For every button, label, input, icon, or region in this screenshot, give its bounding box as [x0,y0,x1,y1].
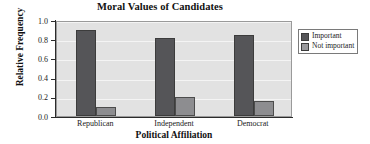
bar [254,101,274,116]
y-axis-tick [51,21,56,22]
legend-swatch-icon [301,43,309,51]
y-axis-tick-label: 0.8 [22,36,48,45]
chart-title: Moral Values of Candidates [40,1,280,12]
y-axis-tick [51,59,56,60]
legend-label: Important [312,32,342,41]
y-axis-tick [51,98,56,99]
y-axis-line [55,20,56,118]
plot-area [56,21,292,117]
y-axis-tick [51,40,56,41]
x-axis-tick-label: Democrat [213,119,293,128]
x-axis-title: Political Affiliation [56,130,292,140]
y-axis-tick-label: 0.4 [22,74,48,83]
bar [76,30,96,116]
bars-layer [57,22,291,116]
legend-entry: Important [301,32,355,41]
y-axis-tick [51,79,56,80]
x-axis-tick-label: Republican [55,119,135,128]
bar [96,107,116,116]
bar [234,35,254,116]
chart-legend: ImportantNot important [298,29,358,54]
bar-chart: Moral Values of Candidates Relative Freq… [0,0,370,144]
x-axis-tick-label: Independent [134,119,214,128]
y-axis-tick-label: 1.0 [22,17,48,26]
y-axis-tick-label: 0.0 [22,113,48,122]
bar [155,38,175,116]
y-axis-tick-label: 0.2 [22,93,48,102]
bar [175,97,195,116]
legend-label: Not important [312,42,354,51]
legend-entry: Not important [301,42,355,51]
legend-swatch-icon [301,33,309,41]
x-axis-line [55,117,293,118]
y-axis-tick-label: 0.6 [22,55,48,64]
